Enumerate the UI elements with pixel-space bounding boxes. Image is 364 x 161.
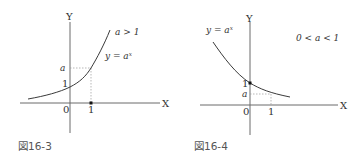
curve-label: y = aˣ	[205, 25, 234, 35]
figure-caption: 図16-4	[194, 140, 228, 152]
x-axis-label: X	[162, 98, 170, 109]
y-tick-a: a	[242, 89, 247, 99]
origin-label: 0	[63, 104, 69, 115]
y-tick-one: 1	[242, 78, 248, 89]
exponential-curve-decay	[213, 42, 290, 97]
origin-label: 0	[243, 106, 249, 117]
exponential-curve-growth	[28, 30, 110, 99]
point-marker	[249, 82, 252, 85]
guide-lines	[250, 94, 271, 105]
y-tick-one: 1	[62, 78, 68, 89]
figure-caption: 図16-3	[18, 140, 52, 152]
y-axis-label: Y	[65, 11, 73, 22]
figure-16-4: Y X 0 1 1 a 0 < a < 1 y = aˣ 図16-4	[194, 13, 348, 152]
x-axis-label: X	[340, 100, 348, 111]
figure-16-3: Y X 0 1 1 a a > 1 y = aˣ 図16-3	[18, 11, 170, 152]
exponential-graphs-diagram: Y X 0 1 1 a a > 1 y = aˣ 図16-3 Y X 0 1 1…	[0, 0, 364, 161]
x-tick-label: 1	[88, 104, 94, 115]
condition-label: 0 < a < 1	[296, 33, 339, 43]
condition-label: a > 1	[115, 27, 139, 37]
y-axis-label: Y	[245, 13, 253, 24]
y-tick-a: a	[60, 63, 65, 73]
curve-label: y = aˣ	[104, 51, 133, 61]
x-tick-label: 1	[268, 106, 274, 117]
